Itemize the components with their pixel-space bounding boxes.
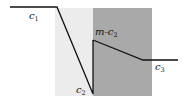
concentration-diagram: c1 c2 m-c2 c3	[0, 0, 192, 101]
label-c3: c3	[155, 61, 165, 74]
light-shaded-region	[55, 8, 93, 96]
label-c1: c1	[29, 10, 39, 23]
